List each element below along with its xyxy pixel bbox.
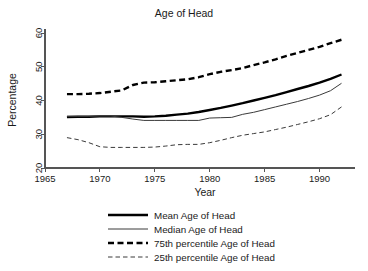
- x-axis-title-group: Year: [194, 186, 216, 198]
- x-tick-label: 1985: [254, 173, 275, 184]
- legend-label-3: 25th percentile Age of Head: [154, 252, 275, 263]
- x-axis-label: Year: [194, 186, 216, 198]
- x-tick-label: 1970: [89, 173, 110, 184]
- x-axis: 196519701975198019851990: [34, 168, 355, 184]
- y-axis-label: Percentage: [6, 73, 18, 127]
- y-axis: 2030405060: [33, 28, 46, 174]
- x-tick-label: 1990: [309, 173, 330, 184]
- y-tick-label: 30: [33, 129, 44, 140]
- age-of-head-line-chart: Age of Head 2030405060 19651970197519801…: [0, 0, 368, 271]
- y-tick-label: 60: [33, 28, 44, 39]
- chart-title-group: Age of Head: [155, 7, 214, 19]
- series-line-0: [67, 75, 342, 118]
- x-tick-label: 1980: [199, 173, 220, 184]
- y-tick-label: 20: [33, 163, 44, 174]
- legend-label-0: Mean Age of Head: [154, 210, 235, 221]
- legend-label-2: 75th percentile Age of Head: [154, 238, 275, 249]
- chart-legend: Mean Age of HeadMedian Age of Head75th p…: [108, 210, 275, 263]
- x-tick-label: 1965: [34, 173, 55, 184]
- y-tick-label: 40: [33, 95, 44, 106]
- data-series-group: [67, 40, 342, 148]
- series-line-3: [67, 107, 342, 148]
- chart-figure: Age of Head 2030405060 19651970197519801…: [0, 0, 368, 271]
- legend-label-1: Median Age of Head: [154, 224, 243, 235]
- series-line-2: [67, 40, 342, 94]
- x-tick-label: 1975: [144, 173, 165, 184]
- page-title: Age of Head: [155, 7, 214, 19]
- y-tick-label: 50: [33, 61, 44, 72]
- y-axis-title-group: Percentage: [6, 73, 18, 127]
